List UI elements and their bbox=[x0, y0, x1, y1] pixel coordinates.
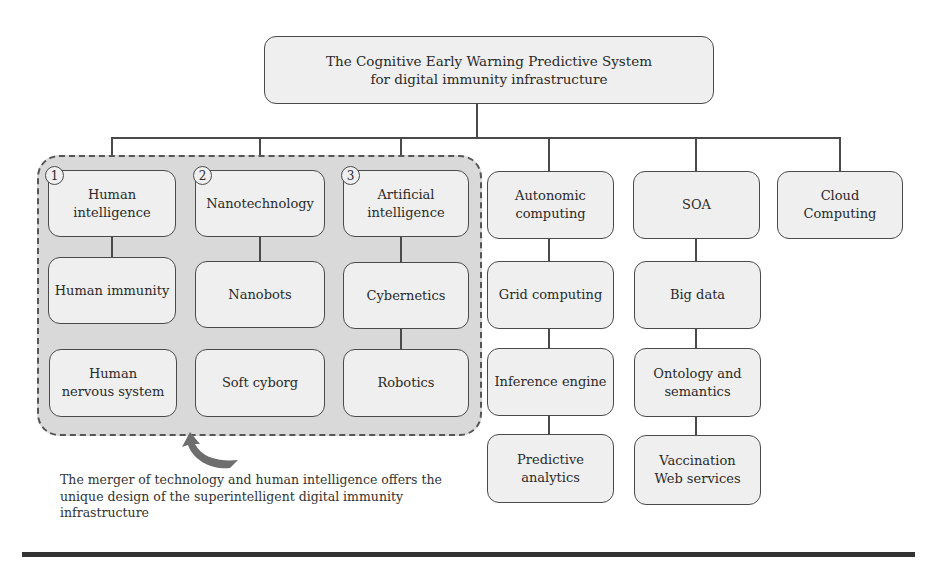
badge-2: 2 bbox=[193, 166, 212, 185]
node-label: Soft cyborg bbox=[222, 374, 298, 392]
node-label: Cybernetics bbox=[367, 287, 446, 305]
node-soa: SOA bbox=[633, 171, 760, 239]
node-label: Robotics bbox=[377, 374, 434, 392]
root-node-label: The Cognitive Early Warning Predictive S… bbox=[326, 52, 652, 88]
caption-text: The merger of technology and human intel… bbox=[60, 472, 460, 522]
connector-c1-r1 bbox=[111, 236, 113, 258]
connector-c4-r3 bbox=[548, 415, 550, 435]
node-label: Human nervous system bbox=[62, 365, 165, 400]
connector-c5-r3 bbox=[695, 416, 697, 436]
node-predictive-analytics: Predictive analytics bbox=[487, 434, 614, 503]
connector-c3-r1 bbox=[400, 236, 402, 263]
node-label: Predictive analytics bbox=[517, 451, 584, 486]
node-label: Big data bbox=[670, 286, 725, 304]
curved-arrow-icon bbox=[180, 428, 250, 474]
node-cloud-computing: Cloud Computing bbox=[777, 171, 903, 239]
node-robotics: Robotics bbox=[343, 349, 469, 417]
node-cybernetics: Cybernetics bbox=[343, 262, 469, 329]
node-big-data: Big data bbox=[634, 261, 761, 329]
connector-c4-r1 bbox=[548, 238, 550, 262]
node-label: Vaccination Web services bbox=[654, 452, 740, 487]
drop-col6 bbox=[839, 137, 841, 172]
node-autonomic-computing: Autonomic computing bbox=[487, 171, 614, 239]
drop-col5 bbox=[695, 137, 697, 172]
bus-connector bbox=[111, 137, 841, 139]
node-human-intelligence: Human intelligence bbox=[48, 170, 176, 237]
node-soft-cyborg: Soft cyborg bbox=[195, 349, 325, 417]
connector-c2-r1 bbox=[259, 236, 261, 262]
node-human-immunity: Human immunity bbox=[48, 257, 176, 324]
node-label: Human immunity bbox=[55, 282, 170, 300]
node-vaccination-web-services: Vaccination Web services bbox=[634, 435, 761, 505]
node-nanobots: Nanobots bbox=[195, 261, 325, 328]
connector-c5-r2 bbox=[695, 328, 697, 349]
node-artificial-intelligence: Artificial intelligence bbox=[343, 170, 469, 237]
connector-c3-r2 bbox=[400, 328, 402, 350]
node-ontology-semantics: Ontology and semantics bbox=[634, 348, 761, 417]
trunk-connector bbox=[476, 104, 478, 139]
node-inference-engine: Inference engine bbox=[487, 348, 614, 416]
badge-3: 3 bbox=[341, 166, 360, 185]
connector-c4-r2 bbox=[548, 328, 550, 348]
node-label: Grid computing bbox=[499, 286, 602, 304]
node-nanotechnology: Nanotechnology bbox=[195, 170, 325, 237]
node-label: Human intelligence bbox=[73, 186, 150, 221]
node-human-nervous-system: Human nervous system bbox=[49, 349, 177, 417]
node-label: Inference engine bbox=[494, 373, 606, 391]
connector-c5-r1 bbox=[695, 238, 697, 262]
drop-col4 bbox=[548, 137, 550, 172]
root-node: The Cognitive Early Warning Predictive S… bbox=[264, 36, 714, 104]
node-label: Nanotechnology bbox=[206, 195, 314, 213]
node-label: SOA bbox=[682, 196, 711, 214]
badge-1: 1 bbox=[45, 166, 64, 185]
node-label: Artificial intelligence bbox=[367, 186, 444, 221]
node-label: Autonomic computing bbox=[515, 187, 586, 222]
node-grid-computing: Grid computing bbox=[487, 261, 614, 329]
node-label: Ontology and semantics bbox=[653, 365, 741, 400]
node-label: Cloud Computing bbox=[804, 187, 877, 222]
bottom-rule bbox=[22, 552, 915, 557]
node-label: Nanobots bbox=[228, 286, 291, 304]
